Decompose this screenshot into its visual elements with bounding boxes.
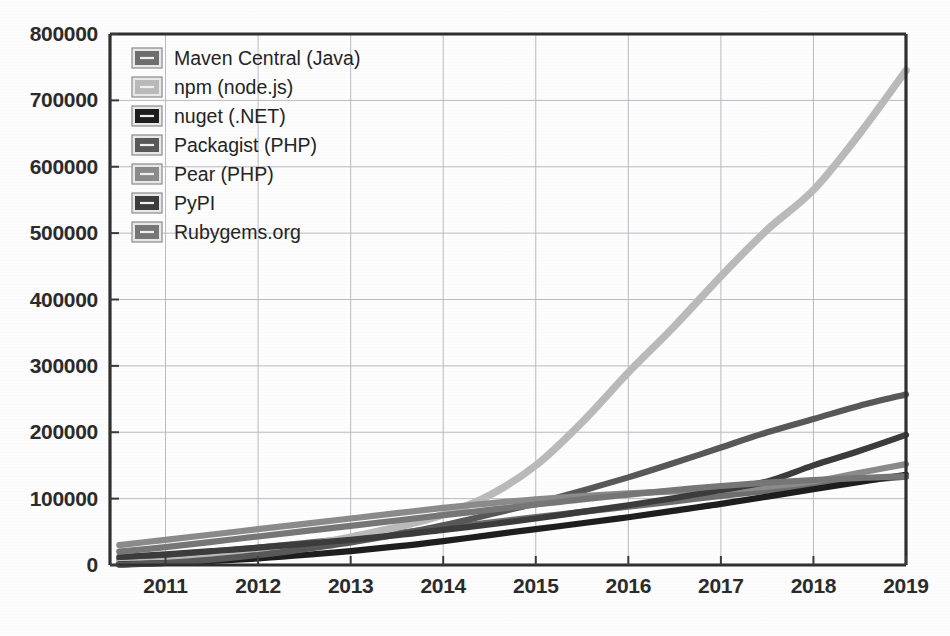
x-axis-tick-label: 2013 [328,574,374,597]
y-axis-tick-label: 400000 [30,288,98,311]
y-axis-ticks: 0100000200000300000400000500000600000700… [30,22,119,576]
legend-item: npm (node.js) [132,76,293,98]
y-axis-tick-label: 200000 [30,420,98,443]
y-axis-tick-label: 700000 [30,88,98,111]
y-axis-tick-label: 600000 [30,155,98,178]
legend-item-label: nuget (.NET) [174,105,286,127]
x-axis-ticks: 201120122013201420152016201720182019 [143,556,928,597]
x-axis-tick-label: 2018 [791,574,837,597]
x-axis-tick-label: 2016 [606,574,652,597]
legend-item-label: npm (node.js) [174,76,293,98]
page-background: 0100000200000300000400000500000600000700… [0,0,950,636]
legend-item-label: PyPI [174,192,215,214]
legend-item-label: Rubygems.org [174,221,301,243]
x-axis-tick-label: 2012 [235,574,281,597]
legend-item: Pear (PHP) [132,163,274,185]
x-axis-tick-label: 2014 [420,574,466,597]
x-axis-tick-label: 2011 [143,574,188,597]
y-axis-tick-label: 100000 [30,487,98,510]
y-axis-tick-label: 0 [87,553,98,576]
legend-item-label: Pear (PHP) [174,163,274,185]
x-axis-tick-label: 2017 [698,574,744,597]
chart-canvas: 0100000200000300000400000500000600000700… [0,0,950,636]
legend-item: Rubygems.org [132,221,301,243]
y-axis-tick-label: 800000 [30,22,98,45]
legend-item: Packagist (PHP) [132,134,317,156]
x-axis-tick-label: 2019 [883,574,929,597]
legend-item: Maven Central (Java) [132,47,360,69]
x-axis-tick-label: 2015 [513,574,559,597]
legend-item-label: Maven Central (Java) [174,47,360,69]
chart-legend: Maven Central (Java)npm (node.js)nuget (… [132,47,360,243]
legend-item: PyPI [132,192,215,214]
y-axis-tick-label: 500000 [30,221,98,244]
line-chart: 0100000200000300000400000500000600000700… [0,0,950,636]
legend-item: nuget (.NET) [132,105,286,127]
y-axis-tick-label: 300000 [30,354,98,377]
legend-item-label: Packagist (PHP) [174,134,317,156]
